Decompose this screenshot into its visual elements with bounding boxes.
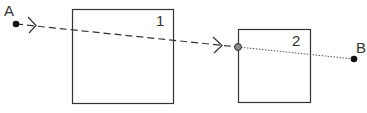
box-1-label: 1 (156, 12, 164, 29)
dashed-ray-segment (16, 24, 238, 47)
entry-point-dot (235, 44, 242, 51)
box-2-label: 2 (292, 32, 300, 49)
point-b-label: B (356, 39, 366, 56)
ray-box-diagram: 1 2 A B (0, 0, 367, 113)
point-a-label: A (4, 2, 14, 19)
point-a-dot (13, 21, 20, 28)
point-b-dot (351, 56, 358, 63)
